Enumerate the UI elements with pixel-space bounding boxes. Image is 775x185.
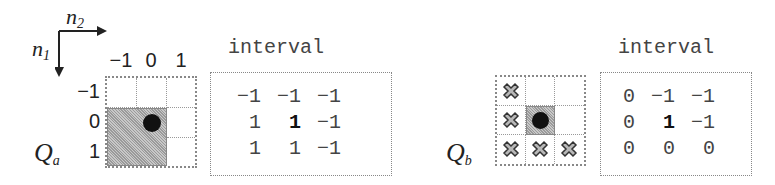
qb-interval-value: 0 (595, 111, 635, 134)
n1-axis-label: n1 (32, 36, 50, 64)
qa-interval-box: −1 −1 −1 1 1 −1 1 1 −1 (210, 72, 392, 176)
n2-axis-label: n2 (66, 4, 84, 32)
qa-interval-value: −1 (301, 137, 341, 160)
qa-row-tick: −1 (70, 80, 100, 103)
qb-interval-value: 0 (675, 137, 715, 160)
qb-interval-center-value: 1 (635, 111, 675, 134)
qb-interval-value: −1 (635, 85, 675, 108)
qa-interval-value: −1 (221, 85, 261, 108)
qa-interval-value: −1 (301, 85, 341, 108)
axes-arrows-icon (55, 25, 110, 80)
x-mark-icon (501, 81, 521, 101)
qa-row-tick: 0 (70, 110, 100, 133)
qa-col-tick: 1 (166, 49, 196, 72)
qa-neighborhood-grid (105, 76, 197, 168)
qb-interval-value: 0 (635, 137, 675, 160)
qb-interval-value: −1 (675, 111, 715, 134)
qb-label: Qb (446, 138, 472, 169)
qa-col-tick: −1 (106, 49, 136, 72)
x-mark-icon (501, 139, 521, 159)
qb-interval-box: 0 −1 −1 0 1 −1 0 0 0 (600, 72, 752, 176)
qa-interval-value: 1 (261, 137, 301, 160)
x-mark-icon (530, 139, 550, 159)
qa-interval-value: −1 (301, 111, 341, 134)
x-mark-icon (559, 139, 579, 159)
qa-interval-value: 1 (221, 137, 261, 160)
qa-interval-center-value: 1 (261, 111, 301, 134)
qb-interval-value: −1 (675, 85, 715, 108)
x-mark-icon (501, 110, 521, 130)
qa-row-tick: 1 (70, 140, 100, 163)
qb-interval-title: interval (618, 36, 714, 59)
qa-interval-title: interval (228, 36, 324, 59)
qb-center-dot (532, 112, 549, 129)
qb-interval-value: 0 (595, 137, 635, 160)
qa-label: Qa (34, 138, 60, 169)
qa-interval-value: −1 (261, 85, 301, 108)
qa-col-tick: 0 (136, 49, 166, 72)
qa-interval-value: 1 (221, 111, 261, 134)
qb-interval-value: 0 (595, 85, 635, 108)
qb-neighborhood-grid (495, 75, 586, 166)
qa-center-dot (143, 114, 161, 132)
